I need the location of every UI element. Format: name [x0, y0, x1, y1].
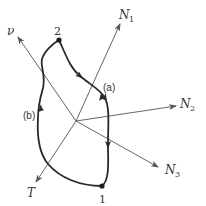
axis-n3-label: N 3 [164, 163, 180, 179]
point-1-label: 1 [99, 193, 106, 206]
axis-n1-label: N 1 [118, 8, 134, 24]
path-a [59, 40, 108, 186]
thermodynamic-path-diagram: 2 1 (a) (b) N 1 N 2 N 3 T ν [0, 0, 206, 206]
axis-n2 [76, 106, 176, 121]
state-point-1 [99, 183, 104, 188]
axis-n3 [76, 121, 158, 167]
point-2-label: 2 [54, 25, 61, 38]
path-a-label: (a) [103, 82, 115, 93]
axis-t-label: T [27, 186, 36, 200]
axis-v-label: ν [7, 24, 14, 38]
svg-text:1: 1 [129, 15, 134, 24]
path-b-label: (b) [23, 110, 35, 121]
svg-text:2: 2 [190, 104, 195, 113]
state-point-2 [56, 37, 61, 42]
axis-n2-label: N 2 [179, 97, 195, 113]
svg-text:3: 3 [175, 170, 180, 179]
axis-n1 [76, 24, 120, 121]
